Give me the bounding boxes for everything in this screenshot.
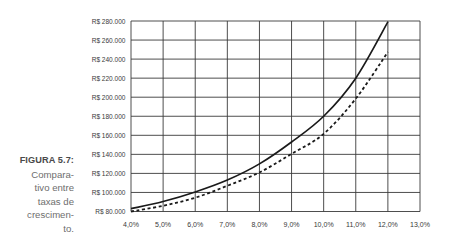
y-tick-label: R$ 280.000 bbox=[92, 16, 126, 26]
y-tick-label: R$ 180.000 bbox=[92, 111, 126, 121]
y-tick-label: R$ 240.000 bbox=[92, 54, 126, 64]
y-tick-label: R$ 120.000 bbox=[92, 169, 126, 179]
x-tick-label: 7,0% bbox=[219, 220, 235, 230]
x-tick-label: 4,0% bbox=[123, 220, 139, 230]
x-tick-label: 9,0% bbox=[284, 220, 300, 230]
y-tick-label: R$ 220.000 bbox=[92, 73, 126, 83]
x-axis-labels: 4,0%5,0%6,0%7,0%8,0%9,0%10,0%11,0%12,0%1… bbox=[123, 220, 430, 230]
y-tick-label: R$ 160.000 bbox=[92, 130, 126, 140]
y-tick-label: R$ 80.000 bbox=[95, 207, 125, 217]
x-tick-label: 8,0% bbox=[251, 220, 267, 230]
x-tick-label: 5,0% bbox=[155, 220, 171, 230]
y-tick-label: R$ 140.000 bbox=[92, 149, 126, 159]
y-axis-labels: R$ 80.000R$ 100.000R$ 120.000R$ 140.000R… bbox=[92, 16, 126, 216]
x-tick-label: 13,0% bbox=[410, 220, 430, 230]
chart-grid bbox=[131, 21, 420, 212]
x-tick-label: 12,0% bbox=[378, 220, 398, 230]
y-tick-label: R$ 260.000 bbox=[92, 35, 126, 45]
x-tick-label: 11,0% bbox=[346, 220, 366, 230]
y-tick-label: R$ 100.000 bbox=[92, 188, 126, 198]
line-chart: R$ 80.000R$ 100.000R$ 120.000R$ 140.000R… bbox=[0, 0, 451, 246]
x-tick-label: 10,0% bbox=[314, 220, 334, 230]
x-tick-label: 6,0% bbox=[187, 220, 203, 230]
y-tick-label: R$ 200.000 bbox=[92, 92, 126, 102]
